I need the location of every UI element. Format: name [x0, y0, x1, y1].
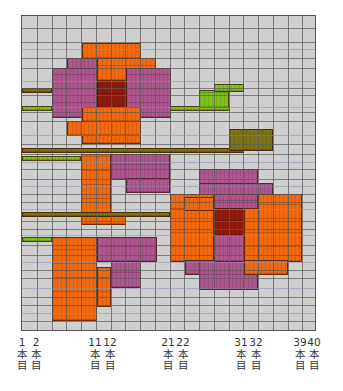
grid-row-line [22, 28, 315, 29]
grid-column-line [199, 16, 200, 330]
strand-label-text: 目 [15, 360, 29, 372]
grid-row-line [22, 186, 315, 187]
strand-label: 39本目 [293, 337, 307, 372]
strand-label: 2本目 [29, 337, 43, 372]
strand-label-text: 目 [293, 360, 307, 372]
strand-label-text: 39 [293, 337, 307, 349]
pattern-grid [21, 15, 316, 331]
grid-column-line [52, 16, 53, 330]
orange-block [258, 194, 302, 262]
grid-row-line [22, 49, 315, 50]
strand-label-text: 22 [176, 337, 190, 349]
orange-block [52, 237, 97, 321]
grid-column-line [170, 16, 171, 330]
grid-row-line [22, 313, 315, 314]
strand-label-text: 目 [307, 360, 321, 372]
grid-column-line [96, 16, 97, 330]
grid-row-line [22, 135, 315, 136]
purple-block [97, 237, 157, 262]
grid-row-line [22, 305, 315, 306]
grid-row-line [22, 278, 315, 279]
strand-label-text: 31 [234, 337, 248, 349]
grid-row-line [22, 221, 315, 222]
grid-row-line [22, 107, 315, 108]
grid-row-line [22, 202, 315, 203]
grid-column-line [184, 16, 185, 330]
grid-column-line [37, 16, 38, 330]
grid-column-line [155, 16, 156, 330]
grid-row-line [22, 58, 315, 59]
grid-column-line [302, 16, 303, 330]
grid-row-line [22, 255, 315, 256]
grid-row-line [22, 144, 315, 145]
grid-row-line [22, 81, 315, 82]
grid-column-line [214, 16, 215, 330]
strand-label-text: 21 [161, 337, 175, 349]
grid-row-line [22, 179, 315, 180]
strand-label-text: 目 [29, 360, 43, 372]
orange-block [82, 107, 141, 122]
grid-row-line [22, 209, 315, 210]
grid-column-line [243, 16, 244, 330]
grid-column-line [273, 16, 274, 330]
strand-label-text: 2 [29, 337, 43, 349]
strand-label-text: 目 [88, 360, 102, 372]
grid-row-line [22, 288, 315, 289]
strand-label-text: 目 [249, 360, 263, 372]
grid-row-line [22, 162, 315, 163]
grid-row-line [22, 235, 315, 236]
strand-label: 31本目 [234, 337, 248, 372]
strand-label-text: 目 [103, 360, 117, 372]
grid-row-line [22, 321, 315, 322]
grid-column-line [140, 16, 141, 330]
grid-column-line [81, 16, 82, 330]
grid-row-line [22, 229, 315, 230]
strand-label: 21本目 [161, 337, 175, 372]
grid-row-line [22, 262, 315, 263]
strand-label-text: 11 [88, 337, 102, 349]
strand-label-text: 目 [176, 360, 190, 372]
grid-column-line [111, 16, 112, 330]
grid-row-line [22, 88, 315, 89]
olive-block [229, 129, 273, 151]
strand-label-text: 目 [161, 360, 175, 372]
grid-row-line [22, 95, 315, 96]
olive-block [22, 148, 244, 153]
orange-block [82, 43, 141, 59]
strand-label: 32本目 [249, 337, 263, 372]
strand-label: 1本目 [15, 337, 29, 372]
grid-column-line [66, 16, 67, 330]
grid-row-line [22, 68, 315, 69]
strand-label: 12本目 [103, 337, 117, 372]
grid-row-line [22, 245, 315, 246]
grid-column-line [258, 16, 259, 330]
strand-label-text: 12 [103, 337, 117, 349]
grid-row-line [22, 169, 315, 170]
strand-label: 22本目 [176, 337, 190, 372]
grid-row-line [22, 194, 315, 195]
strand-label-text: 32 [249, 337, 263, 349]
grid-column-line [229, 16, 230, 330]
grid-row-line [22, 270, 315, 271]
orange-block [97, 267, 111, 307]
strand-label-text: 40 [307, 337, 321, 349]
grid-row-line [22, 112, 315, 113]
grid-row-line [22, 42, 315, 43]
strand-label-text: 1 [15, 337, 29, 349]
grid-row-line [22, 121, 315, 122]
grid-row-line [22, 297, 315, 298]
orange-block [82, 135, 141, 144]
strand-label-text: 目 [234, 360, 248, 372]
orange-block [67, 121, 141, 136]
grid-row-line [22, 154, 315, 155]
strand-label: 11本目 [88, 337, 102, 372]
grid-column-line [288, 16, 289, 330]
strand-label: 40本目 [307, 337, 321, 372]
grid-column-line [125, 16, 126, 330]
